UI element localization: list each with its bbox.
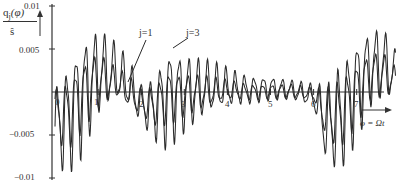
x-axis-label: φ = Ωt [360, 118, 385, 128]
y-label-arg: (φ) [11, 6, 24, 18]
xtick-3: 3 [181, 100, 186, 109]
xtick-6: 6 [311, 100, 316, 109]
y-label-denominator: ŝ [10, 26, 14, 36]
y-axis-label: qj(φ) [3, 7, 24, 22]
xtick-0: 0 [55, 98, 60, 107]
ytick-0.01: 0.01 [24, 2, 40, 11]
ytick-0.005: 0.005 [19, 46, 39, 55]
y-label-fraction-bar [3, 21, 37, 22]
xtick-5: 5 [268, 100, 273, 109]
x-arrow-head [385, 107, 392, 113]
annotation-j1: j=1 [139, 28, 152, 38]
xtick-2: 2 [139, 100, 144, 109]
xtick-7: 7 [354, 100, 359, 109]
xtick-4: 4 [225, 100, 230, 109]
ytick-neg-0.005: −0.005 [9, 130, 34, 139]
ytick-neg-0.01: −0.01 [14, 173, 35, 182]
y-arrow-head [37, 10, 43, 17]
annotation-j3-leader [173, 38, 188, 48]
annotation-j3: j=3 [186, 28, 199, 38]
annotation-j1-leader [128, 40, 146, 82]
xtick-1: 1 [94, 98, 99, 107]
